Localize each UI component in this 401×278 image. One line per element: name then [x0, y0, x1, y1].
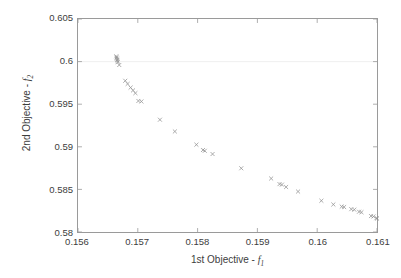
x-axis-tick-label: 0.158 — [186, 237, 210, 247]
chart-figure: 0.6050.60.5950.590.5850.58 0.1560.1570.1… — [0, 0, 401, 278]
y-axis-tick-labels: 0.6050.60.5950.590.5850.58 — [0, 18, 73, 233]
x-axis-title-subscript: 1 — [260, 260, 264, 268]
y-axis-title-subscript: 2 — [27, 75, 35, 79]
y-axis-tick-label: 0.6 — [60, 56, 73, 66]
scatter-point — [211, 152, 215, 156]
x-axis-tick-label: 0.156 — [65, 237, 89, 247]
y-axis-tick-label: 0.605 — [49, 13, 73, 23]
scatter-point — [126, 82, 130, 86]
scatter-point — [158, 118, 162, 122]
y-axis-tick-label: 0.59 — [55, 142, 74, 152]
x-axis-tick-label: 0.16 — [309, 237, 328, 247]
scatter-point — [269, 177, 273, 181]
y-axis-tick-label: 0.585 — [49, 185, 73, 195]
scatter-point — [239, 166, 243, 170]
scatter-point — [331, 202, 335, 206]
scatter-points-layer — [78, 19, 377, 232]
y-axis-tick-label: 0.595 — [49, 99, 73, 109]
y-axis-title-text: 2nd Objective - — [21, 81, 32, 151]
scatter-point — [194, 143, 198, 147]
scatter-point — [173, 129, 177, 133]
scatter-point — [296, 190, 300, 194]
scatter-point — [133, 91, 137, 95]
plot-area — [77, 18, 378, 233]
x-axis-title-text: 1st Objective - — [191, 254, 258, 265]
scatter-point — [352, 208, 356, 212]
x-axis-tick-label: 0.157 — [125, 237, 149, 247]
scatter-point — [319, 199, 323, 203]
scatter-point — [342, 205, 346, 209]
y-axis-title-variable: f — [21, 78, 32, 81]
y-axis-title: 2nd Objective - f2 — [21, 33, 35, 193]
x-axis-tick-label: 0.161 — [366, 237, 390, 247]
x-axis-tick-labels: 0.1560.1570.1580.1590.160.161 — [77, 237, 378, 251]
scatter-point — [139, 99, 143, 103]
x-axis-title: 1st Objective - f1 — [77, 254, 378, 268]
scatter-point — [284, 185, 288, 189]
x-axis-tick-label: 0.159 — [246, 237, 270, 247]
scatter-point — [123, 79, 127, 83]
